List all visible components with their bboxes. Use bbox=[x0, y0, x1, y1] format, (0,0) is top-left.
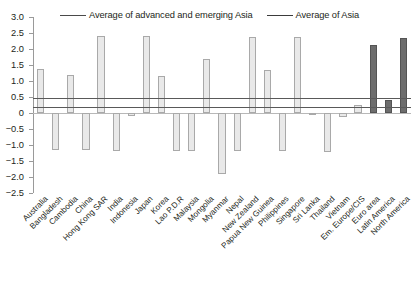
bar bbox=[188, 113, 195, 151]
x-axis-labels: AustraliaBangladeshCambodiaChinaHong Kon… bbox=[33, 195, 411, 290]
bar bbox=[173, 113, 180, 151]
y-axis-tick-label: −1.5 bbox=[6, 157, 24, 166]
bar bbox=[218, 113, 225, 174]
y-axis-tick-label: 1.0 bbox=[11, 77, 24, 86]
bar bbox=[82, 113, 89, 150]
legend-line-swatch bbox=[267, 15, 293, 16]
y-axis-tick-label: −2.0 bbox=[6, 173, 24, 182]
bar bbox=[97, 36, 104, 113]
bar bbox=[203, 59, 210, 113]
reference-line bbox=[33, 98, 411, 99]
bar-series bbox=[33, 17, 411, 193]
bar bbox=[143, 36, 150, 113]
y-axis-tick-label: 3.0 bbox=[11, 13, 24, 22]
bar bbox=[309, 113, 316, 115]
bar bbox=[52, 113, 59, 150]
bar bbox=[294, 37, 301, 113]
bar bbox=[279, 113, 286, 151]
plot-area: 3.02.52.01.51.00.50−0.5−1.0−1.5−2.0−2.5 bbox=[33, 17, 411, 193]
reference-line bbox=[33, 107, 411, 108]
y-axis-tick-label: 0 bbox=[19, 109, 24, 118]
bar bbox=[234, 113, 241, 151]
bar bbox=[128, 113, 135, 116]
bar bbox=[370, 45, 377, 113]
bar bbox=[249, 37, 256, 113]
bar bbox=[324, 113, 331, 152]
y-axis-tick: −2.5 bbox=[29, 193, 33, 194]
chart-figure: Average of advanced and emerging Asia Av… bbox=[0, 0, 414, 297]
bar bbox=[113, 113, 120, 151]
legend-line-swatch bbox=[60, 15, 86, 16]
bar bbox=[339, 113, 346, 117]
y-axis-tick-label: 0.5 bbox=[11, 93, 24, 102]
y-axis-tick-label: 2.5 bbox=[11, 29, 24, 38]
y-axis-tick-label: −0.5 bbox=[6, 125, 24, 134]
y-axis-tick-label: 2.0 bbox=[11, 45, 24, 54]
y-axis-tick-label: −2.5 bbox=[6, 189, 24, 198]
bar bbox=[400, 38, 407, 113]
y-axis-tick-label: 1.5 bbox=[11, 61, 24, 70]
y-axis-tick-label: −1.0 bbox=[6, 141, 24, 150]
